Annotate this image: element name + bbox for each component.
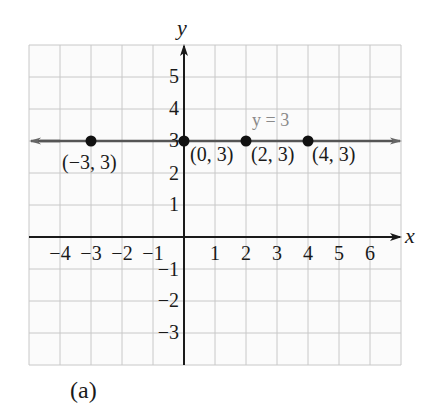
y-tick-m3: −3 — [158, 321, 179, 343]
x-tick-p6: 6 — [365, 242, 375, 264]
point-0-3 — [179, 136, 190, 147]
x-tick-p4: 4 — [303, 242, 313, 264]
point-label-0-3: (0, 3) — [190, 143, 233, 166]
y-tick-p2: 2 — [169, 162, 179, 184]
x-tick-m2: −2 — [111, 242, 132, 264]
coordinate-plane: x y −4 −3 −2 −1 1 2 3 4 5 6 5 4 3 2 1 −1… — [0, 0, 443, 408]
x-tick-p2: 2 — [241, 242, 251, 264]
x-axis-label: x — [404, 223, 415, 248]
x-tick-p3: 3 — [272, 242, 282, 264]
figure-caption: (a) — [70, 377, 97, 403]
y-axis-label: y — [175, 15, 187, 40]
y-tick-m1: −1 — [158, 258, 179, 280]
x-tick-m3: −3 — [80, 242, 101, 264]
y-tick-p1: 1 — [169, 193, 179, 215]
point-label-4-3: (4, 3) — [312, 143, 355, 166]
x-tick-p5: 5 — [334, 242, 344, 264]
y-tick-p5: 5 — [169, 65, 179, 87]
x-tick-m4: −4 — [49, 242, 70, 264]
point-label-2-3: (2, 3) — [251, 143, 294, 166]
point-2-3 — [241, 136, 252, 147]
point-m3-3 — [86, 136, 97, 147]
y-tick-m2: −2 — [158, 289, 179, 311]
y-tick-p3: 3 — [169, 129, 179, 151]
equation-label: y = 3 — [252, 110, 289, 130]
x-tick-p1: 1 — [210, 242, 220, 264]
y-tick-p4: 4 — [169, 97, 179, 119]
point-label-m3-3: (−3, 3) — [62, 151, 117, 174]
